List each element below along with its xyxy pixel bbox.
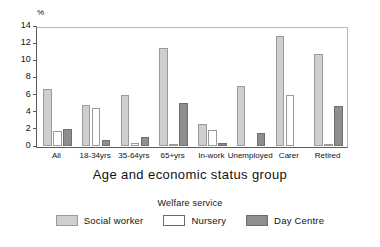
- bar-social: [198, 124, 207, 146]
- bars-layer: [38, 28, 346, 146]
- bar-social: [314, 54, 323, 146]
- bar-group: [82, 28, 111, 146]
- bar-group: [43, 28, 72, 146]
- x-axis-category-label: 35-64yrs: [118, 150, 149, 161]
- legend-item-nursery[interactable]: Nursery: [163, 215, 226, 226]
- x-axis-category-label: All: [52, 150, 61, 161]
- bar-nursery: [131, 143, 140, 146]
- bar-daycentre: [63, 129, 72, 146]
- y-axis-tick-label: 4: [26, 106, 31, 117]
- bar-social: [276, 36, 285, 146]
- bar-nursery: [324, 144, 333, 146]
- x-axis-category-labels: All18-34yrs35-64yrs65+yrsIn-workUnemploy…: [36, 150, 348, 164]
- y-axis-tick-label: 14: [21, 20, 31, 31]
- plot-area: 02468101214: [36, 27, 348, 148]
- bar-nursery: [169, 144, 178, 146]
- bar-group: [159, 28, 188, 146]
- legend-swatch-social: [56, 215, 78, 226]
- y-axis-tick-mark: [33, 94, 37, 95]
- bar-daycentre: [141, 137, 150, 146]
- bar-group: [121, 28, 150, 146]
- bar-social: [121, 95, 130, 146]
- bar-daycentre: [334, 106, 343, 146]
- bar-nursery: [53, 131, 62, 146]
- legend-swatch-daycentre: [246, 215, 268, 226]
- bar-group: [237, 28, 266, 146]
- x-axis-category-label: Carer: [279, 150, 299, 161]
- x-axis-category-label: 18-34yrs: [80, 150, 111, 161]
- legend-label: Day Centre: [274, 215, 324, 226]
- y-axis-tick-label: 12: [21, 37, 31, 48]
- y-axis-tick-mark: [33, 146, 37, 147]
- bar-social: [43, 89, 52, 146]
- bar-social: [82, 105, 91, 146]
- bar-social: [159, 48, 168, 146]
- bar-nursery: [208, 130, 217, 146]
- y-axis-tick-label: 0: [26, 140, 31, 151]
- bar-social: [237, 86, 246, 146]
- bar-group: [276, 28, 305, 146]
- y-axis-tick-label: 8: [26, 71, 31, 82]
- x-axis-category-label: Retired: [315, 150, 341, 161]
- bar-daycentre: [257, 133, 266, 146]
- y-axis-tick-mark: [33, 60, 37, 61]
- y-axis-unit-label: %: [37, 8, 44, 17]
- x-axis-category-label: 65+yrs: [161, 150, 185, 161]
- legend-title: Welfare service: [0, 198, 380, 209]
- legend-item-daycentre[interactable]: Day Centre: [246, 215, 324, 226]
- bar-group: [314, 28, 343, 146]
- y-axis-tick-label: 6: [26, 89, 31, 100]
- y-axis-tick-mark: [33, 43, 37, 44]
- bar-group: [198, 28, 227, 146]
- y-axis-tick-mark: [33, 77, 37, 78]
- bar-nursery: [92, 108, 101, 146]
- x-axis-category-label: Unemployed: [228, 150, 273, 161]
- y-axis-tick-mark: [33, 26, 37, 27]
- y-axis-tick-mark: [33, 128, 37, 129]
- y-axis-tick-mark: [33, 111, 37, 112]
- bar-daycentre: [218, 143, 227, 146]
- x-axis-category-label: In-work: [198, 150, 224, 161]
- bar-chart-figure: % 02468101214 All18-34yrs35-64yrs65+yrsI…: [0, 0, 380, 247]
- legend-label: Social worker: [84, 215, 144, 226]
- y-axis-tick-label: 10: [21, 54, 31, 65]
- legend-label: Nursery: [191, 215, 226, 226]
- x-axis-title: Age and economic status group: [0, 167, 380, 183]
- legend-swatch-nursery: [163, 215, 185, 226]
- bar-daycentre: [179, 103, 188, 146]
- bar-nursery: [286, 95, 295, 146]
- legend: Social workerNurseryDay Centre: [0, 215, 380, 226]
- y-axis-tick-label: 2: [26, 123, 31, 134]
- bar-daycentre: [102, 140, 111, 146]
- legend-item-social[interactable]: Social worker: [56, 215, 144, 226]
